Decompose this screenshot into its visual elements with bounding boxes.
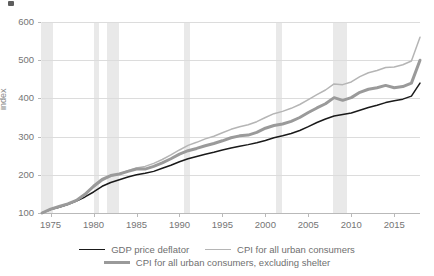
- legend-swatch-cpi-all-urban: [205, 249, 231, 251]
- y-axis-tick-label: 100: [6, 207, 34, 218]
- x-axis-tick-label: 1975: [31, 219, 71, 230]
- series-line: [42, 37, 420, 213]
- plot-area: [42, 22, 420, 213]
- y-axis-tick-label: 600: [6, 16, 34, 27]
- x-axis-tick-label: 1985: [117, 219, 157, 230]
- legend-item-cpi-excluding-shelter[interactable]: CPI for all urban consumers, excluding s…: [104, 257, 330, 268]
- chart-page: index 100200300400500600 197519801985199…: [0, 0, 434, 276]
- x-axis-tick-label: 2010: [331, 219, 371, 230]
- y-axis-tick-label: 400: [6, 92, 34, 103]
- x-axis-tick: [265, 213, 266, 217]
- x-axis-tick-label: 2005: [288, 219, 328, 230]
- chart-legend: GDP price deflator CPI for all urban con…: [0, 243, 434, 269]
- y-axis-tick-label: 200: [6, 169, 34, 180]
- cropped-title-sliver: [8, 0, 128, 7]
- x-axis-tick-label: 2015: [374, 219, 414, 230]
- x-axis-tick: [137, 213, 138, 217]
- x-axis-tick: [51, 213, 52, 217]
- x-axis-tick: [179, 213, 180, 217]
- y-axis-tick-label: 300: [6, 131, 34, 142]
- x-axis-tick-label: 1980: [74, 219, 114, 230]
- legend-swatch-gdp-price-deflator: [79, 249, 105, 251]
- legend-row-2: CPI for all urban consumers, excluding s…: [0, 256, 434, 269]
- legend-row-1: GDP price deflator CPI for all urban con…: [0, 243, 434, 256]
- series-lines: [42, 22, 420, 213]
- x-axis-tick-label: 2000: [245, 219, 285, 230]
- x-axis-tick-label: 1990: [159, 219, 199, 230]
- x-axis-tick: [308, 213, 309, 217]
- x-axis-tick: [394, 213, 395, 217]
- y-axis-tick-label: 500: [6, 54, 34, 65]
- series-line: [42, 60, 420, 213]
- title-bullet-icon: [8, 1, 14, 6]
- x-axis-tick: [94, 213, 95, 217]
- legend-swatch-cpi-excluding-shelter: [104, 261, 130, 264]
- x-axis-tick: [351, 213, 352, 217]
- x-axis-tick-label: 1995: [202, 219, 242, 230]
- series-line: [42, 83, 420, 213]
- legend-label-cpi-all-urban: CPI for all urban consumers: [237, 244, 355, 255]
- x-axis-line: [42, 213, 420, 214]
- x-axis-tick: [222, 213, 223, 217]
- legend-label-gdp-price-deflator: GDP price deflator: [111, 244, 189, 255]
- legend-item-gdp-price-deflator[interactable]: GDP price deflator: [79, 244, 189, 255]
- legend-label-cpi-excluding-shelter: CPI for all urban consumers, excluding s…: [136, 257, 330, 268]
- legend-item-cpi-all-urban[interactable]: CPI for all urban consumers: [205, 244, 355, 255]
